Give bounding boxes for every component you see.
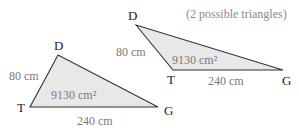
vertex-label-g: G [282, 73, 291, 88]
side-dt-label: 80 cm [116, 45, 146, 59]
vertex-label-t: T [167, 72, 175, 87]
vertex-label-d: D [54, 38, 63, 53]
side-tg-label: 240 cm [77, 114, 113, 128]
diagram: D T G 80 cm 240 cm 9130 cm² D T G 80 cm … [0, 0, 299, 138]
area-label: 9130 cm² [172, 53, 218, 67]
vertex-label-t: T [17, 100, 25, 115]
vertex-label-d: D [128, 8, 137, 23]
vertex-label-g: G [164, 103, 173, 118]
triangle-acute: D T G 80 cm 240 cm 9130 cm² [9, 38, 173, 128]
side-dt-label: 80 cm [9, 69, 39, 83]
side-tg-label: 240 cm [208, 74, 244, 88]
diagram-canvas: D T G 80 cm 240 cm 9130 cm² D T G 80 cm … [0, 0, 299, 138]
area-label: 9130 cm² [51, 88, 97, 102]
note-label: (2 possible triangles) [186, 7, 287, 21]
